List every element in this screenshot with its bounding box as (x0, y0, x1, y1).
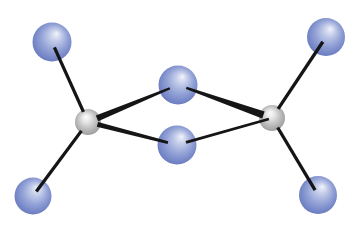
bond-T1-M1 (53, 47, 85, 113)
terminal-atom-top-right (307, 18, 345, 56)
terminal-atom-top-left (33, 23, 72, 62)
bridging-atom-top (159, 66, 198, 105)
bridging-atom-bottom (158, 126, 197, 165)
metal-atom-left (75, 109, 101, 135)
terminal-atom-bottom-left (15, 178, 52, 215)
bond-B1-M2 (186, 87, 265, 119)
bond-M1-B1 (96, 87, 170, 121)
molecule-figure (0, 0, 361, 229)
bond-T4-M2 (276, 127, 316, 191)
metal-atom-right (259, 105, 285, 131)
bond-T3-M2 (277, 41, 324, 110)
bond-B2-M2 (186, 118, 270, 144)
bond-T2-M1 (35, 130, 83, 193)
figure-canvas (0, 0, 361, 229)
bond-M1-B2 (97, 122, 168, 144)
terminal-atom-bottom-right (299, 176, 337, 214)
